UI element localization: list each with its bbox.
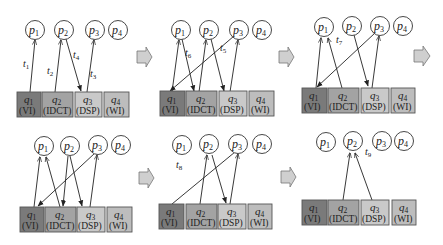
processor-p1: p1 <box>315 18 334 37</box>
queue-q1: q1(VI) <box>160 91 185 116</box>
processor-p1: p1 <box>26 21 45 40</box>
edge-label-t4: t4 <box>73 49 80 62</box>
panel-6: t9 p1 p2 p3 p4 q1(VI) q2(IDCT) q3(DSP) q… <box>302 132 416 226</box>
edge-q1-p1 <box>30 40 35 92</box>
processor-p4: p4 <box>395 132 414 151</box>
edge-label-t7: t7 <box>336 34 343 47</box>
queue-q1: q1(VI) <box>159 204 184 229</box>
edge-q1-p1 <box>316 38 321 88</box>
edge-q1-p1 <box>34 157 40 207</box>
queue-q3: q3(DSP) <box>218 204 246 229</box>
queue-q4: q4(WI) <box>249 91 274 116</box>
panel-3: t7 p1 p2 p3 p4 q1(VI) q2(IDCT) q3(DSP) q… <box>302 17 415 114</box>
processor-p1: p1 <box>173 136 192 155</box>
queue-q2: q2(IDCT) <box>186 91 217 116</box>
queue-q3: q3(DSP) <box>219 91 247 116</box>
edge-q3-p3 <box>87 40 94 92</box>
queue-q4: q4(WI) <box>107 207 132 232</box>
queue-q3: q3(DSP) <box>361 88 389 113</box>
processor-p2: p2 <box>343 17 362 36</box>
processor-p1: p1 <box>172 21 191 40</box>
queue-q2: q2(IDCT) <box>42 92 73 117</box>
queue-q2: q2(IDCT) <box>186 204 217 229</box>
panel-2: t6 t5 p1 p2 p3 p4 q1(VI) q2(IDCT) q3(DSP… <box>160 21 274 117</box>
queue-q4: q4(WI) <box>392 200 416 225</box>
svg-text:(IDCT): (IDCT) <box>187 105 216 116</box>
svg-text:(IDCT): (IDCT) <box>43 106 72 117</box>
svg-text:(IDCT): (IDCT) <box>329 102 358 113</box>
svg-text:(DSP): (DSP) <box>220 105 244 116</box>
flow-arrow-icon <box>279 47 294 67</box>
svg-text:(VI): (VI) <box>304 214 320 225</box>
svg-text:(WI): (WI) <box>394 214 412 225</box>
edge-p2-q3 <box>70 156 82 206</box>
processor-p2: p2 <box>200 21 219 40</box>
processor-p2: p2 <box>55 21 74 40</box>
svg-text:(DSP): (DSP) <box>362 214 386 225</box>
processor-p4: p4 <box>394 17 413 36</box>
panel-1: t1 t2 t4 t3 p1 p2 p3 p4 q1(VI) q2(IDCT) … <box>17 21 129 118</box>
edge-q2-p2 <box>343 153 350 200</box>
svg-text:(IDCT): (IDCT) <box>329 214 358 225</box>
processor-p4: p4 <box>253 135 272 154</box>
edge-p1-q2 <box>182 39 194 91</box>
edge-q3-p3 <box>230 40 238 92</box>
flow-arrow-icon <box>137 47 152 67</box>
processor-p2: p2 <box>344 132 363 151</box>
edge-label-t8: t8 <box>176 159 183 172</box>
queue-q1: q1(VI) <box>302 200 327 225</box>
queue-q4: q4(WI) <box>248 204 272 229</box>
svg-text:(WI): (WI) <box>106 106 124 117</box>
edge-q3-p3 <box>90 155 97 207</box>
queue-q4: q4(WI) <box>391 88 415 113</box>
processor-p3: p3 <box>373 132 392 151</box>
processor-p2: p2 <box>200 135 219 154</box>
svg-text:(DSP): (DSP) <box>76 106 100 117</box>
queue-q3: q3(DSP) <box>77 207 105 232</box>
queue-q2: q2(IDCT) <box>328 88 359 113</box>
processor-p3: p3 <box>230 21 249 40</box>
edge-label-t2: t2 <box>47 65 54 78</box>
svg-text:(IDCT): (IDCT) <box>187 218 216 229</box>
processor-p1: p1 <box>35 137 54 156</box>
svg-text:(IDCT): (IDCT) <box>46 221 75 232</box>
queue-q2: q2(IDCT) <box>328 200 359 225</box>
queue-q3: q3(DSP) <box>75 92 102 117</box>
svg-text:(DSP): (DSP) <box>78 221 102 232</box>
edge-q3-p3 <box>230 154 238 204</box>
edge-label-t5: t5 <box>220 42 227 55</box>
edge-p3-q1 <box>38 153 95 206</box>
edge-p2-q3 <box>212 155 226 203</box>
svg-text:(VI): (VI) <box>22 221 38 232</box>
svg-text:(VI): (VI) <box>304 102 320 113</box>
edge-q2-p2 <box>199 40 206 92</box>
queue-q1: q1(VI) <box>20 207 44 232</box>
processor-p4: p4 <box>109 21 128 40</box>
svg-text:(DSP): (DSP) <box>219 218 243 229</box>
panel-4: p1 p2 p3 p4 q1(VI) q2(IDCT) q3(DSP) q4(W… <box>20 136 132 233</box>
svg-text:(WI): (WI) <box>109 221 127 232</box>
edge-label-t9: t9 <box>365 146 372 159</box>
edge-q3-p3 <box>372 36 379 88</box>
edge-q3-p2 <box>355 153 372 200</box>
svg-text:(VI): (VI) <box>161 218 177 229</box>
flow-arrow-icon <box>281 167 296 187</box>
processor-p1: p1 <box>317 133 336 152</box>
processor-p4: p4 <box>253 21 272 40</box>
edge-p2-q3 <box>354 35 368 86</box>
edge-q2-p1 <box>46 157 60 207</box>
svg-text:(WI): (WI) <box>393 102 411 113</box>
processor-p3: p3 <box>89 136 108 155</box>
svg-text:(VI): (VI) <box>162 105 178 116</box>
processor-p3: p3 <box>371 17 390 36</box>
svg-text:(WI): (WI) <box>251 105 269 116</box>
edge-label-t1: t1 <box>23 58 30 71</box>
svg-text:(DSP): (DSP) <box>362 102 386 113</box>
flow-arrow-icon <box>139 168 154 188</box>
queue-q4: q4(WI) <box>104 92 129 117</box>
queue-q2: q2(IDCT) <box>45 207 76 232</box>
processor-p3: p3 <box>229 135 248 154</box>
processor-p4: p4 <box>112 136 131 155</box>
queue-q1: q1(VI) <box>302 88 327 113</box>
edge-q2-p2 <box>55 40 61 92</box>
